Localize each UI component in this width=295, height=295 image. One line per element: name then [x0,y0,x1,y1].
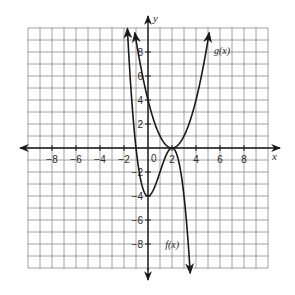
y-tick-label: −4 [132,191,144,202]
y-tick-label: 4 [137,95,143,106]
x-tick-label: −6 [70,154,82,165]
x-tick-label: 6 [217,154,223,165]
y-tick-label: 2 [137,119,143,130]
x-tick-label: 2 [169,154,175,165]
function-labels: x y 0 f(x) g(x) [151,12,277,251]
x-tick-label: −8 [46,154,58,165]
axes [20,16,280,280]
x-tick-label: 4 [193,154,199,165]
f-curve [127,28,190,273]
y-axis-label: y [152,12,158,24]
origin-label: 0 [151,153,157,164]
g-curve-label: g(x) [214,45,231,57]
coordinate-plane: −8−6−4−22468−8−6−4−22468 x y 0 f(x) g(x) [0,0,295,295]
x-axis-label: x [271,150,277,162]
x-tick-label: 8 [241,154,247,165]
f-curve-label: f(x) [165,239,180,251]
x-tick-label: −4 [94,154,106,165]
x-tick-label: −2 [118,154,130,165]
function-curves [127,28,209,273]
y-tick-label: −2 [132,167,144,178]
y-tick-label: −8 [132,239,144,250]
y-tick-label: −6 [132,215,144,226]
